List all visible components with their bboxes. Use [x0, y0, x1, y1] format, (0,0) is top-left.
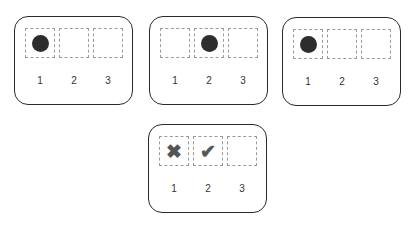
- slot-label-3: 3: [93, 75, 123, 86]
- slot-label-3: 3: [228, 75, 258, 86]
- slot-1: [293, 29, 323, 59]
- slot-1: [160, 28, 190, 58]
- filled-dot-icon: [32, 35, 49, 52]
- slot-3: [93, 28, 123, 58]
- panel-3: 1 2 3: [282, 17, 401, 106]
- slot-label-2: 2: [59, 75, 89, 86]
- cross-icon: ✖: [166, 142, 182, 161]
- slot-label-1: 1: [159, 183, 189, 194]
- slot-label-3: 3: [227, 183, 257, 194]
- slot-2: ✔: [193, 136, 223, 166]
- slot-label-3: 3: [361, 76, 391, 87]
- filled-dot-icon: [201, 35, 218, 52]
- panel-4: ✖ ✔ 1 2 3: [148, 124, 267, 213]
- panel-1: 1 2 3: [14, 16, 133, 105]
- slot-3: [361, 29, 391, 59]
- slot-3: [227, 136, 257, 166]
- panel-2: 1 2 3: [149, 16, 268, 105]
- slot-label-2: 2: [327, 76, 357, 87]
- slot-3: [228, 28, 258, 58]
- slot-2: [59, 28, 89, 58]
- check-icon: ✔: [200, 142, 216, 161]
- filled-dot-icon: [300, 36, 317, 53]
- slot-label-1: 1: [25, 75, 55, 86]
- slot-1: [25, 28, 55, 58]
- slot-2: [327, 29, 357, 59]
- slot-label-1: 1: [293, 76, 323, 87]
- slot-2: [194, 28, 224, 58]
- slot-label-1: 1: [160, 75, 190, 86]
- slot-1: ✖: [159, 136, 189, 166]
- slot-label-2: 2: [194, 75, 224, 86]
- slot-label-2: 2: [193, 183, 223, 194]
